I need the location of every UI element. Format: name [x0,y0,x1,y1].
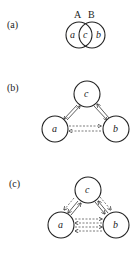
panel-a: (a) A B a c b [7,9,105,48]
panel-c: (c) c a b [9,177,129,238]
panel-b-label: (b) [7,82,19,94]
node-b-label: b [113,219,118,230]
node-b-label: b [113,123,118,134]
arrow-c-to-a [64,105,77,119]
diagram-canvas: (a) A B a c b (b) c a b (c) c a b [0,0,137,254]
node-a-label: a [58,219,63,230]
dashed-arrow-c-to-b [100,197,111,210]
arrow-a-to-c [67,106,80,120]
node-a-label: a [52,123,57,134]
region-a-label: a [70,29,75,40]
panel-b: (b) c a b [7,81,129,142]
node-c-label: c [84,88,89,99]
panel-a-label: (a) [7,19,18,31]
set-label-A: A [74,9,82,20]
arrow-a-to-c [71,203,81,215]
panel-c-label: (c) [9,178,20,190]
arrow-c-to-a [68,201,78,213]
region-c-label: c [83,29,88,40]
set-label-B: B [88,9,95,20]
region-b-label: b [96,29,101,40]
node-c-label: c [85,184,90,195]
